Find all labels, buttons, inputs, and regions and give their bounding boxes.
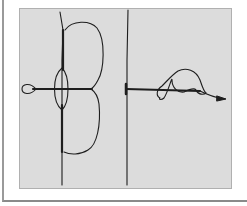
right-vertical-axis	[127, 10, 128, 185]
upper-lobe	[65, 22, 103, 89]
right-plot	[126, 10, 226, 185]
lower-lobe	[64, 89, 100, 154]
trajectory	[157, 69, 206, 99]
locus-diagram	[0, 0, 247, 206]
arrow-head-icon	[217, 96, 226, 101]
left-plot	[22, 12, 103, 185]
